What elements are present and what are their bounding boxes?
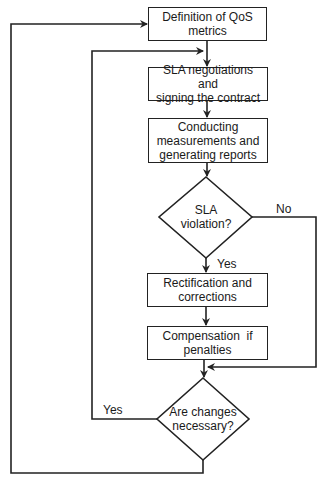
edge-label-no: No — [276, 202, 291, 216]
label-line: Definition of QoS — [162, 10, 253, 24]
label-line: necessary? — [169, 419, 236, 433]
process-conducting-measurements: Conducting measurements and generating r… — [148, 118, 268, 163]
label-line: Conducting — [157, 120, 260, 134]
decision-label-changes-necessary: Are changes necessary? — [160, 402, 246, 436]
process-compensation-if-penalties: Compensation if penalties — [147, 326, 268, 360]
process-definition-of-qos-metrics: Definition of QoS metrics — [148, 7, 267, 41]
label-line: signing the contract — [152, 91, 264, 105]
process-sla-negotiations: SLA negotiations and signing the contrac… — [148, 67, 268, 101]
label-line: SLA — [181, 203, 232, 217]
decision-label-sla-violation: SLA violation? — [166, 200, 246, 234]
label-line: measurements and — [157, 134, 260, 148]
label-line: penalties — [162, 343, 252, 357]
label-line: generating reports — [157, 148, 260, 162]
label-line: corrections — [163, 290, 252, 304]
label-line: Compensation if — [162, 329, 252, 343]
label-line: violation? — [181, 217, 232, 231]
label-line: Rectification and — [163, 276, 252, 290]
label-line: SLA negotiations and — [152, 63, 264, 91]
edge-label-yes-changes: Yes — [103, 403, 123, 417]
process-rectification-and-corrections: Rectification and corrections — [147, 273, 268, 307]
edge-label-yes-sla: Yes — [217, 257, 237, 271]
label-line: metrics — [162, 24, 253, 38]
label-line: Are changes — [169, 405, 236, 419]
